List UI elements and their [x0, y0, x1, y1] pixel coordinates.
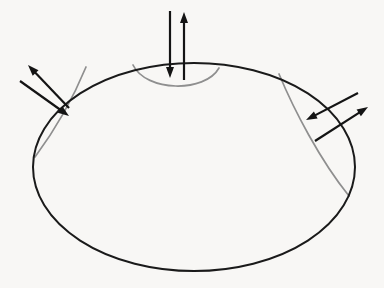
diagram-background: [0, 0, 384, 288]
flux-diagram: [0, 0, 384, 288]
diagram-canvas: [0, 0, 384, 288]
